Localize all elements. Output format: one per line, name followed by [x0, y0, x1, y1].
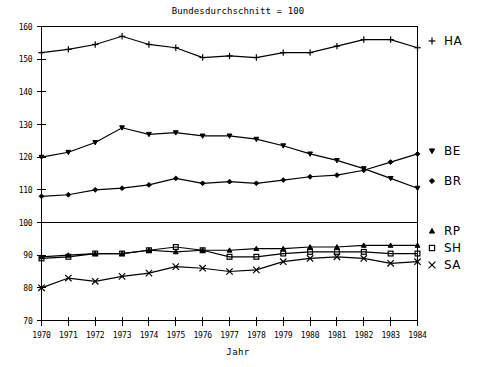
y-tick-label: 110 — [19, 186, 33, 195]
x-tick-label: 1972 — [86, 331, 105, 340]
x-tick-label: 1976 — [193, 331, 212, 340]
legend-item-br[interactable]: BR — [429, 174, 461, 188]
data-point-marker-triangle-up — [361, 243, 366, 247]
data-series-group — [38, 33, 420, 291]
data-point-marker-diamond — [120, 186, 125, 191]
data-point-marker-diamond — [66, 192, 71, 197]
x-tick-label: 1978 — [247, 331, 266, 340]
data-point-marker-plus — [280, 49, 286, 55]
data-point-marker-diamond — [254, 181, 259, 186]
data-point-marker-triangle-up — [415, 243, 420, 247]
data-point-marker-triangle-up — [335, 245, 340, 249]
data-point-marker-triangle-down — [173, 131, 178, 135]
chart-container: Bundesdurchschnitt = 100 708090100110120… — [0, 0, 477, 367]
x-tick-label: 1984 — [408, 331, 427, 340]
data-point-marker-triangle-up — [308, 245, 313, 249]
data-point-marker-triangle-down — [308, 152, 313, 156]
legend-label-be: BE — [444, 144, 461, 158]
legend-label-ha: HA — [444, 34, 462, 48]
x-tick-label: 1971 — [59, 331, 78, 340]
data-point-marker-triangle-down — [120, 126, 125, 130]
data-point-marker-diamond — [200, 181, 205, 186]
data-point-marker-triangle-down — [415, 186, 420, 190]
data-point-marker-triangle-down — [227, 134, 232, 138]
data-point-marker-triangle-down — [200, 134, 205, 138]
data-point-marker-triangle-down — [254, 137, 259, 141]
legend-item-sh[interactable]: SH — [429, 241, 461, 255]
data-point-marker-plus — [307, 49, 313, 55]
data-point-marker-triangle-down — [388, 176, 393, 180]
data-point-marker-triangle-down — [147, 132, 152, 136]
data-point-marker-plus — [173, 45, 179, 51]
y-tick-label: 80 — [23, 284, 33, 293]
data-point-marker-plus — [65, 46, 71, 52]
legend-label-br: BR — [444, 174, 461, 188]
legend-item-be[interactable]: BE — [429, 144, 460, 158]
legend-label-sh: SH — [444, 241, 461, 255]
chart-legend: HABEBRRPSHSA — [429, 34, 463, 272]
data-point-marker-plus — [119, 33, 125, 39]
data-point-marker-plus — [429, 38, 436, 45]
legend-item-sa[interactable]: SA — [429, 258, 462, 272]
data-point-marker-triangle-up — [254, 246, 259, 250]
data-point-marker-diamond — [39, 194, 44, 199]
legend-item-ha[interactable]: HA — [429, 34, 463, 48]
data-point-marker-plus — [387, 36, 393, 42]
data-point-marker-diamond — [415, 152, 420, 157]
data-point-marker-triangle-up — [388, 243, 393, 247]
data-point-marker-plus — [361, 36, 367, 42]
x-tick-label: 1975 — [167, 331, 186, 340]
data-point-marker-diamond — [147, 183, 152, 188]
y-tick-label: 130 — [19, 121, 33, 130]
data-point-marker-triangle-down — [281, 144, 286, 148]
y-tick-label: 150 — [19, 55, 33, 64]
series-br — [39, 152, 420, 199]
y-tick-label: 140 — [19, 88, 33, 97]
data-point-marker-triangle-up — [429, 228, 434, 233]
x-tick-label: 1973 — [113, 331, 132, 340]
data-point-marker-diamond — [335, 173, 340, 178]
data-point-marker-triangle-down — [39, 155, 44, 159]
data-point-marker-plus — [226, 53, 232, 59]
data-point-marker-plus — [92, 41, 98, 47]
x-tick-label: 1979 — [274, 331, 293, 340]
data-point-marker-triangle-down — [429, 149, 434, 154]
data-point-marker-plus — [199, 54, 205, 60]
data-point-marker-triangle-down — [93, 141, 98, 145]
data-point-marker-diamond — [281, 178, 286, 183]
data-point-marker-square — [429, 245, 434, 250]
x-axis-label: Jahr — [226, 347, 249, 357]
y-tick-label: 70 — [23, 317, 33, 326]
x-tick-label: 1970 — [32, 331, 51, 340]
x-tick-label: 1983 — [381, 331, 400, 340]
data-point-marker-diamond — [429, 178, 434, 183]
series-ha — [38, 33, 420, 61]
data-point-marker-plus — [253, 54, 259, 60]
data-point-marker-triangle-up — [281, 246, 286, 250]
data-point-marker-diamond — [93, 187, 98, 192]
chart-title: Bundesdurchschnitt = 100 — [172, 6, 304, 16]
x-tick-label: 1982 — [355, 331, 374, 340]
data-point-marker-triangle-down — [66, 150, 71, 154]
y-tick-label: 120 — [19, 153, 33, 162]
data-point-marker-diamond — [308, 174, 313, 179]
y-tick-label: 100 — [19, 219, 33, 228]
legend-item-rp[interactable]: RP — [429, 224, 460, 238]
data-point-marker-triangle-up — [227, 248, 232, 252]
line-chart: Bundesdurchschnitt = 100 708090100110120… — [0, 0, 477, 367]
y-tick-label: 90 — [23, 251, 33, 260]
x-tick-label: 1981 — [328, 331, 347, 340]
data-point-marker-diamond — [173, 176, 178, 181]
legend-label-sa: SA — [444, 258, 461, 272]
data-point-marker-plus — [38, 49, 44, 55]
data-point-marker-diamond — [227, 179, 232, 184]
x-tick-label: 1980 — [301, 331, 320, 340]
x-tick-label: 1977 — [220, 331, 239, 340]
data-point-marker-plus — [334, 43, 340, 49]
data-point-marker-triangle-down — [335, 159, 340, 163]
data-point-marker-triangle-up — [173, 250, 178, 254]
chart-axes — [42, 27, 418, 321]
y-tick-label: 160 — [19, 23, 33, 32]
data-point-marker-cross — [429, 262, 436, 269]
data-point-marker-diamond — [388, 160, 393, 165]
